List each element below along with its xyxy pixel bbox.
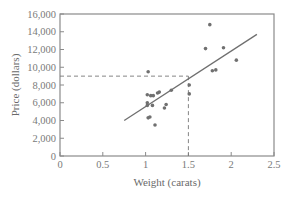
fit-line <box>124 34 257 120</box>
data-point <box>146 104 150 108</box>
data-point <box>146 70 150 74</box>
data-point <box>214 68 218 72</box>
y-axis-ticks: 02,0004,0006,0008,00010,00012,00014,0001… <box>27 9 64 162</box>
data-point <box>164 103 168 107</box>
data-point <box>187 83 191 87</box>
x-tick-label: 1.5 <box>182 159 195 170</box>
x-axis-title: Weight (carats) <box>133 176 201 189</box>
x-tick-label: 2.5 <box>267 159 280 170</box>
data-point <box>169 89 173 93</box>
data-point <box>208 23 212 27</box>
y-tick-label: 14,000 <box>27 26 56 37</box>
y-tick-label: 10,000 <box>27 62 56 73</box>
y-tick-label: 16,000 <box>27 9 56 20</box>
plot-border <box>60 14 274 156</box>
regression-line <box>124 34 257 120</box>
y-tick-label: 4,000 <box>32 115 56 126</box>
x-tick-label: 2 <box>229 159 234 170</box>
y-tick-label: 2,000 <box>32 133 56 144</box>
x-tick-label: 0 <box>57 159 62 170</box>
y-tick-label: 12,000 <box>27 44 56 55</box>
data-points <box>146 23 239 127</box>
data-point <box>151 104 155 108</box>
data-point <box>163 106 167 110</box>
y-tick-label: 6,000 <box>32 97 56 108</box>
data-point <box>235 58 239 62</box>
data-point <box>222 46 226 50</box>
data-point <box>152 94 156 98</box>
x-axis-ticks: 00.511.522.5 <box>57 152 280 170</box>
dashed-guide-lines <box>60 76 188 156</box>
x-tick-label: 0.5 <box>96 159 109 170</box>
y-axis-title: Price (dollars) <box>9 53 22 116</box>
data-point <box>204 47 208 51</box>
data-point <box>187 92 191 96</box>
data-point <box>211 69 215 73</box>
data-point <box>148 115 152 119</box>
y-tick-label: 0 <box>51 151 56 162</box>
data-point <box>146 93 150 97</box>
data-point <box>157 90 161 94</box>
plot-frame <box>60 14 274 156</box>
y-tick-label: 8,000 <box>32 80 56 91</box>
scatter-chart: 02,0004,0006,0008,00010,00012,00014,0001… <box>0 0 288 198</box>
x-tick-label: 1 <box>143 159 148 170</box>
data-point <box>153 123 157 127</box>
